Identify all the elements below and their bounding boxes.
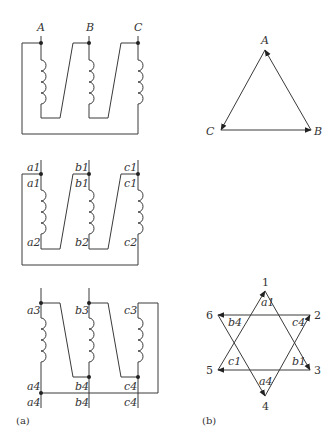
star-point-6: 6 — [206, 309, 213, 322]
label-c4-outer: c4 — [124, 396, 137, 409]
bottom-winding-diagram: a3 b3 c3 a4 b4 c4 a4 b4 c4 — [27, 288, 158, 409]
caption-a: (a) — [16, 415, 30, 426]
terminal-label-B: B — [85, 21, 94, 34]
label-b4-outer: b4 — [75, 396, 89, 409]
label-b3: b3 — [75, 304, 89, 317]
top-winding-diagram: A B C — [22, 21, 143, 134]
edge-label-b4: b4 — [228, 316, 242, 329]
label-c3: c3 — [124, 304, 137, 317]
phasor-star: 1 2 3 4 5 6 a1 c4 b1 a4 c1 b4 — [206, 276, 321, 413]
edge-label-a1: a1 — [261, 296, 275, 309]
star-point-4: 4 — [262, 400, 269, 413]
caption-b: (b) — [202, 415, 216, 426]
terminal-label-A: A — [36, 21, 45, 34]
label-a3: a3 — [27, 304, 41, 317]
label-a2: a2 — [27, 236, 41, 249]
vertex-B: B — [313, 125, 322, 138]
label-c1-inner: c1 — [124, 177, 137, 190]
label-b1-outer: b1 — [75, 161, 89, 174]
vertex-A: A — [260, 34, 269, 47]
label-a1-outer: a1 — [27, 161, 41, 174]
star-point-3: 3 — [314, 364, 321, 377]
label-c4-inner: c4 — [124, 380, 137, 393]
star-point-5: 5 — [206, 364, 213, 377]
label-b2: b2 — [75, 236, 89, 249]
vertex-C: C — [206, 125, 215, 138]
star-point-1: 1 — [262, 276, 269, 289]
label-a4-outer: a4 — [27, 396, 41, 409]
label-b4-inner: b4 — [75, 380, 89, 393]
edge-label-c4: c4 — [292, 316, 305, 329]
label-a1-inner: a1 — [27, 177, 41, 190]
phasor-triangle: A B C — [206, 34, 322, 138]
label-b1-inner: b1 — [75, 177, 89, 190]
terminal-label-C: C — [134, 21, 143, 34]
star-point-2: 2 — [314, 309, 321, 322]
label-c1-outer: c1 — [124, 161, 137, 174]
transformer-connection-figure: A B C — [0, 0, 336, 440]
middle-winding-diagram: a1 b1 c1 a1 b1 c1 a2 b2 c2 — [22, 160, 143, 265]
edge-label-b1: b1 — [292, 355, 306, 368]
edge-label-a4: a4 — [259, 375, 273, 388]
label-c2: c2 — [124, 236, 137, 249]
label-a4-inner: a4 — [27, 380, 41, 393]
edge-label-c1: c1 — [228, 355, 241, 368]
